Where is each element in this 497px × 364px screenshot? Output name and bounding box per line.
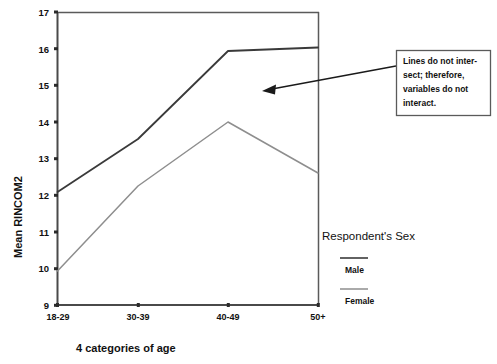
- interaction-line-chart: 17 16 15 14 13 12 11 10 9 18-29 30-39 40…: [0, 0, 497, 364]
- y-tick-label-12: 12: [38, 190, 49, 201]
- chart-page: 17 16 15 14 13 12 11 10 9 18-29 30-39 40…: [0, 0, 497, 364]
- y-tick-label-16: 16: [38, 44, 49, 55]
- y-tick-label-11: 11: [39, 227, 50, 238]
- legend-label-male: Male: [345, 265, 364, 275]
- x-axis-title: 4 categories of age: [76, 342, 176, 354]
- series-line-male: [58, 48, 319, 193]
- annotation-line-4: interact.: [403, 98, 436, 108]
- y-tick-label-14: 14: [38, 117, 49, 128]
- y-tick-label-17: 17: [38, 7, 49, 18]
- x-tick-label-30-39: 30-39: [126, 312, 149, 322]
- annotation-line-3: variables do not: [403, 84, 468, 94]
- y-axis-title: Mean RINCOM2: [12, 176, 24, 258]
- annotation-line-1: Lines do not inter-: [403, 56, 477, 66]
- y-tick-label-13: 13: [38, 153, 49, 164]
- annotation-arrow: [262, 66, 396, 95]
- annotation-box: Lines do not inter- sect; therefore, var…: [397, 51, 491, 116]
- y-tick-label-9: 9: [44, 300, 49, 311]
- annotation-line-2: sect; therefore,: [403, 70, 464, 80]
- y-tick-label-15: 15: [38, 80, 49, 91]
- legend-label-female: Female: [345, 296, 375, 306]
- y-tick-label-10: 10: [38, 263, 49, 274]
- legend-title: Respondent's Sex: [322, 230, 415, 242]
- x-tick-label-50-plus: 50+: [310, 312, 325, 322]
- x-tick-label-18-29: 18-29: [46, 312, 69, 322]
- x-tick-label-40-49: 40-49: [216, 312, 239, 322]
- legend: Respondent's Sex Male Female: [322, 230, 415, 306]
- series-line-female: [58, 122, 319, 271]
